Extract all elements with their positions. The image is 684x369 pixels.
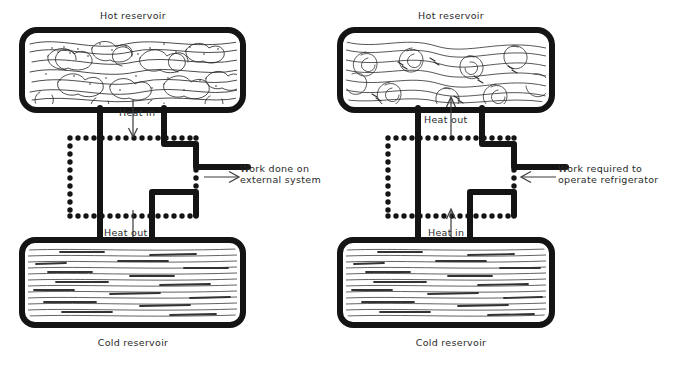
heat-out-label-left: Heat out [104,227,148,238]
cycle-boundary-bottom-left [67,213,192,218]
cycle-boundary-left-side [67,143,72,212]
work-output-label-left-line1: Work done on [240,163,309,174]
cold-reservoir-outline-right [340,240,552,325]
hot-reservoir-label-right: Hot reservoir [418,10,484,21]
thermodynamics-diagram: Hot reservoir Heat in Heat out Work done… [0,0,684,369]
refrigerator-pipework-right [418,108,566,243]
work-input-arrow-right [521,172,556,183]
hot-reservoir-right [340,30,552,111]
cycle-boundary-top-left [67,135,192,140]
hot-reservoir-outline-right [340,30,552,110]
work-output-label-left-line2: external system [240,174,321,185]
work-input-label-right-line2: operate refrigerator [558,174,658,185]
panel-heat-engine [22,30,248,325]
cold-reservoir-left [22,240,243,325]
work-input-label-right-line1: Work required to [558,163,642,174]
heat-in-label-right: Heat in [428,227,464,238]
work-output-arrow-left [204,172,239,183]
work-output-label-left: Work done on external system [240,163,321,185]
cold-reservoir-outline-left [22,240,243,325]
engine-pipework-left [100,108,248,243]
cycle-boundary-right [385,135,516,218]
cold-reservoir-label-left: Cold reservoir [98,337,169,348]
panel-refrigerator [340,30,566,325]
cold-reservoir-label-right: Cold reservoir [416,337,487,348]
cycle-boundary-left-side-right [385,143,390,212]
cycle-boundary-left [67,135,198,218]
heat-out-label-right: Heat out [424,114,468,125]
hot-reservoir-label-left: Hot reservoir [100,10,166,21]
heat-in-label-left: Heat in [119,107,155,118]
work-input-label-right: Work required to operate refrigerator [558,163,658,185]
cold-reservoir-right [340,240,552,325]
cycle-boundary-top-right [385,135,510,140]
